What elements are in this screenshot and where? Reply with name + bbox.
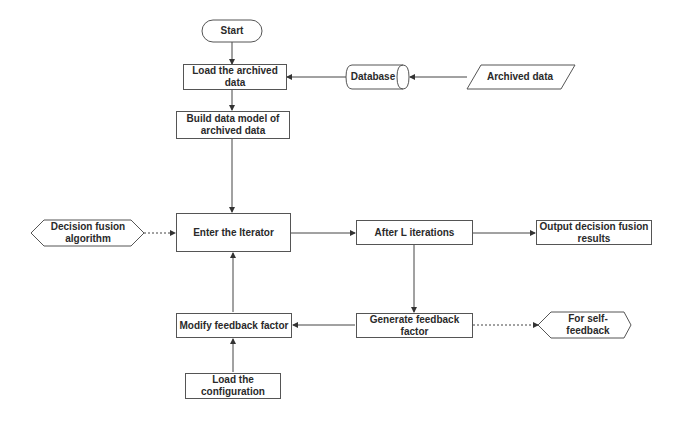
node-generate-feedback-factor: Generate feedback factor [356,313,473,338]
node-build-data-model: Build data model of archived data [176,111,290,139]
node-load-configuration: Load the configuration [185,373,281,399]
start-terminator-shape [202,20,262,42]
node-modify-feedback-factor: Modify feedback factor [176,313,292,338]
node-after-l-iterations: After L iterations [356,220,473,245]
archived-data-parallelogram-shape [467,65,575,89]
database-cylinder-shape [346,65,409,89]
algorithm-hexagon-shape [31,220,144,246]
node-enter-iterator: Enter the Iterator [176,213,291,252]
selffeedback-hexagon-shape [538,312,631,338]
node-output-results: Output decision fusion results [536,220,652,245]
flowchart-canvas [0,0,685,426]
node-load-archived-data: Load the archived data [183,64,287,90]
